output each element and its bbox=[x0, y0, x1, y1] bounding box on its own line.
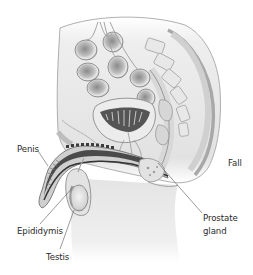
label-epididymis: Epididymis bbox=[17, 225, 63, 237]
label-prostate-gland: Prostate gland bbox=[203, 212, 238, 237]
anatomy-figure: Penis Epididymis Testis Prostate gland F… bbox=[0, 0, 253, 275]
label-prostate-line1: Prostate bbox=[203, 212, 238, 225]
label-adjacent-cutoff: Fall bbox=[228, 157, 253, 169]
label-prostate-line2: gland bbox=[203, 225, 238, 238]
label-testis: Testis bbox=[46, 251, 69, 263]
label-penis: Penis bbox=[17, 143, 39, 155]
